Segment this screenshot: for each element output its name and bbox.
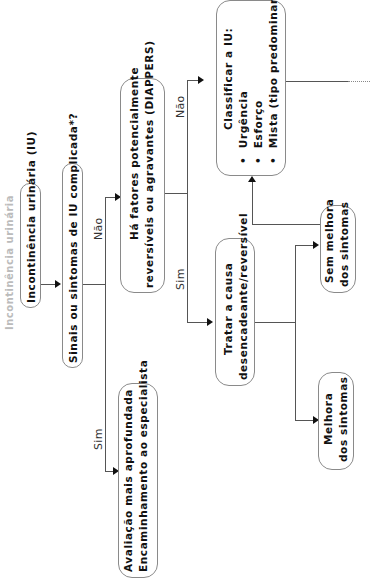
- edge-q1-trunk: [83, 284, 105, 285]
- edge-no-improve-back: [252, 224, 320, 225]
- edge-q2-split: [187, 80, 188, 323]
- node-q2-line1: Há fatores potencialmente: [128, 67, 141, 240]
- edge-start-q1: [41, 284, 55, 285]
- node-treat-line2: desencadeante/reversível: [237, 213, 250, 380]
- edge-q2-trunk: [165, 193, 187, 194]
- edge-label-q2-no: Não: [174, 95, 187, 118]
- node-specialist-line1: Avaliação mais aprofundada: [122, 389, 135, 572]
- edge-label-q1-no: Não: [92, 217, 105, 240]
- edge-classify-out: [286, 81, 348, 82]
- node-start-label: Incontinência urinária (IU): [25, 131, 38, 303]
- node-classify-item-1: • Urgência: [237, 91, 250, 164]
- edge-q2-yes: [187, 322, 208, 323]
- edge-treat-trunk: [255, 322, 295, 323]
- node-classify-title: Classificar a IU:: [222, 28, 235, 130]
- edge-label-q1-yes: Sim: [92, 428, 105, 450]
- arrow-head-icon: [198, 76, 204, 84]
- edge-q1-split: [105, 197, 106, 457]
- node-improve-line2: dos sintomas: [337, 376, 350, 462]
- edge-label-q2-yes: Sim: [174, 268, 187, 290]
- edge-treat-improve: [295, 420, 313, 421]
- node-q1-label: Sinais ou sintomas de IU complicada*?: [67, 113, 80, 363]
- node-treat-line1: Tratar a causa: [222, 263, 235, 355]
- edge-q2-no: [187, 80, 198, 81]
- edge-classify-continues: [348, 81, 370, 82]
- edge-no-improve-up: [252, 182, 253, 225]
- edge-q1-no: [105, 197, 115, 198]
- node-classify-item-3: • Mista (tipo predominante): [267, 0, 280, 164]
- edge-treat-no-improve: [295, 245, 313, 246]
- diagram-title: Incontinência urinária: [4, 195, 15, 330]
- edge-q1-yes-v: [105, 440, 106, 472]
- arrow-head-icon: [248, 176, 256, 182]
- node-improve-line1: Melhora: [322, 393, 335, 445]
- node-q2-line2: reversíveis ou agravantes (DIAPPERS): [143, 40, 156, 288]
- arrow-head-icon: [313, 241, 319, 249]
- node-no-improve-line1: Sem melhora: [323, 199, 336, 284]
- node-classify-item-2: • Esforço: [252, 100, 265, 164]
- edge-treat-split: [295, 245, 296, 421]
- arrow-head-icon: [55, 280, 61, 288]
- arrow-head-icon: [207, 318, 213, 326]
- flowchart: Incontinência urinária Incontinência uri…: [0, 0, 372, 580]
- node-no-improve-line2: dos sintomas: [338, 201, 351, 287]
- node-specialist-line2: Encaminhamento ao especialista: [137, 360, 150, 572]
